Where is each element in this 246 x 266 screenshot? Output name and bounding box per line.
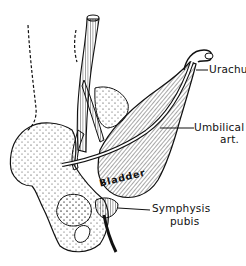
urachus-cut-end xyxy=(205,53,213,59)
label-urachus: Urachus xyxy=(209,64,246,75)
dashed-outline-short xyxy=(75,30,77,62)
diagram-drawing xyxy=(0,0,246,266)
dashed-body-outline xyxy=(28,25,36,130)
label-umbilical-artery-1: Umbilical xyxy=(194,122,244,133)
hip-bone xyxy=(10,123,108,252)
label-symphysis-2: pubis xyxy=(170,216,199,227)
anatomical-diagram: Urachus Umbilical art. Bladder Symphysis… xyxy=(0,0,246,266)
acetabulum xyxy=(57,194,92,226)
symphysis-pubis xyxy=(95,198,118,218)
label-symphysis-1: Symphysis xyxy=(152,203,210,214)
label-umbilical-artery-2: art. xyxy=(220,134,239,145)
symphysis-leader xyxy=(118,208,150,210)
